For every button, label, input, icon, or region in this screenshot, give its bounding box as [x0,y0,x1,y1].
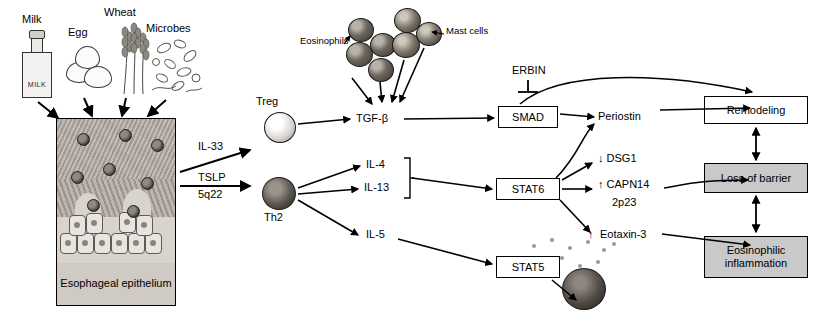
diagram-canvas: MILK [0,0,826,327]
connector-layer [0,0,826,327]
